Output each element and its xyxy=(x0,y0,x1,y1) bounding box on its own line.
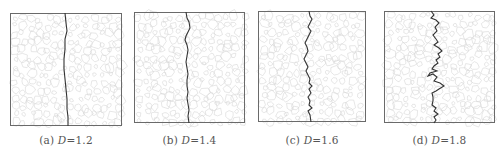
caption-a: (a) D=1.2 xyxy=(10,134,122,150)
fractal-dimension-value: =1.8 xyxy=(440,134,466,146)
concrete-specimen-c xyxy=(258,11,366,122)
panel-d xyxy=(384,11,495,123)
caption-d: (d) D=1.8 xyxy=(384,134,495,150)
aggregate-texture xyxy=(10,14,128,128)
fractal-dimension-symbol: D xyxy=(304,134,313,146)
caption-label: (d) xyxy=(413,134,429,146)
caption-c: (c) D=1.6 xyxy=(258,134,366,150)
panel-a xyxy=(10,13,122,126)
fractal-dimension-value: =1.6 xyxy=(312,134,338,146)
concrete-specimen-a xyxy=(10,13,122,126)
fractal-dimension-symbol: D xyxy=(182,134,191,146)
panel-c xyxy=(258,11,366,122)
caption-label: (a) xyxy=(39,134,54,146)
caption-label: (b) xyxy=(163,134,179,146)
fractal-dimension-value: =1.2 xyxy=(66,134,92,146)
panel-b xyxy=(134,12,245,123)
aggregate-texture xyxy=(133,10,250,129)
fractal-dimension-value: =1.4 xyxy=(190,134,216,146)
concrete-specimen-b xyxy=(134,12,245,123)
fractal-dimension-symbol: D xyxy=(432,134,441,146)
caption-label: (c) xyxy=(285,134,300,146)
caption-b: (b) D=1.4 xyxy=(134,134,245,150)
aggregate-texture xyxy=(382,11,498,127)
concrete-specimen-d xyxy=(384,11,495,123)
